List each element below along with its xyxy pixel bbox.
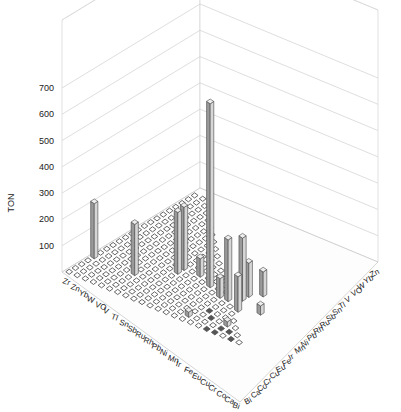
z-tick-labels: 100200300400500600700: [39, 83, 54, 251]
bar-left-face: [131, 222, 135, 276]
bar-right-face: [94, 201, 98, 259]
z-tick-label: 500: [39, 136, 54, 146]
bar-left-face: [225, 238, 229, 302]
bar-right-face: [210, 101, 214, 287]
bar-left-face: [234, 274, 238, 312]
z-tick-label: 600: [39, 109, 54, 119]
bar-right-face: [263, 270, 267, 297]
bar-left-face: [207, 101, 211, 287]
bar-left-face: [216, 276, 220, 298]
z-tick-label: 200: [39, 214, 54, 224]
bar: [224, 317, 231, 327]
bar-right-face: [238, 274, 242, 312]
z-tick-label: 700: [39, 83, 54, 93]
bar-right-face: [243, 236, 247, 301]
bar-right-face: [135, 222, 139, 276]
bar-right-face: [200, 256, 204, 277]
bar-right-face: [178, 210, 182, 274]
bar: [174, 208, 181, 275]
bar: [131, 220, 138, 276]
bar: [91, 199, 98, 259]
bar: [216, 274, 223, 299]
bar-right-face: [228, 238, 232, 302]
bar: [197, 254, 204, 277]
bar-left-face: [174, 210, 178, 274]
bar: [225, 235, 232, 302]
left-axis-label: Bi: [231, 400, 241, 411]
bar: [185, 307, 192, 317]
bar: [207, 99, 214, 288]
left-axis-label: Tl: [110, 312, 120, 323]
bar-left-face: [197, 256, 201, 277]
bar-right-face: [249, 261, 253, 298]
bar-right-face: [184, 205, 188, 270]
bar-left-face: [91, 201, 95, 259]
bar-right-face: [220, 276, 224, 298]
z-tick-label: 100: [39, 241, 54, 251]
bar: [257, 301, 264, 315]
z-tick-label: 400: [39, 162, 54, 172]
bar: [260, 267, 267, 297]
bar3d-plot: 100200300400500600700 ZrZnYbWVOVTlSnSbRu…: [0, 0, 401, 412]
z-axis-label: TON: [6, 194, 16, 213]
chart: 100200300400500600700 ZrZnYbWVOVTlSnSbRu…: [0, 0, 401, 412]
z-tick-label: 300: [39, 188, 54, 198]
bar-left-face: [260, 270, 264, 297]
bar: [234, 272, 241, 312]
